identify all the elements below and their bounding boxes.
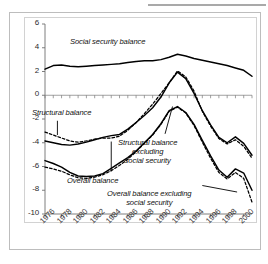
annotation-overall-balance: Overall balance: [67, 176, 118, 185]
y-tick-label: 0: [17, 89, 39, 98]
annotation-structural-balance: Structural balance: [32, 108, 91, 117]
chart-page: 6420-2-4-6-8-10 197619781980198219841986…: [0, 0, 268, 264]
y-tick-label: 6: [17, 18, 39, 27]
y-tick-label: -6: [17, 161, 39, 170]
series-social-security-balance: [45, 54, 252, 76]
y-tick-label: 4: [17, 42, 39, 51]
y-tick-label: 2: [17, 66, 39, 75]
y-tick-label: -10: [17, 208, 39, 217]
annotation-social-security-balance: Social security balance: [70, 37, 145, 46]
y-tick-label: -8: [17, 184, 39, 193]
y-tick-label: -4: [17, 137, 39, 146]
annotation-structural-balance-excluding-social-security: Structural balance excluding social secu…: [118, 138, 177, 166]
leader-overall-excl-ss: [202, 186, 237, 193]
page-top-rule: [148, 4, 266, 6]
annotation-overall-balance-excluding-social-security: Overall balance excluding social securit…: [107, 189, 191, 207]
figure-frame: 6420-2-4-6-8-10 197619781980198219841986…: [9, 12, 261, 250]
